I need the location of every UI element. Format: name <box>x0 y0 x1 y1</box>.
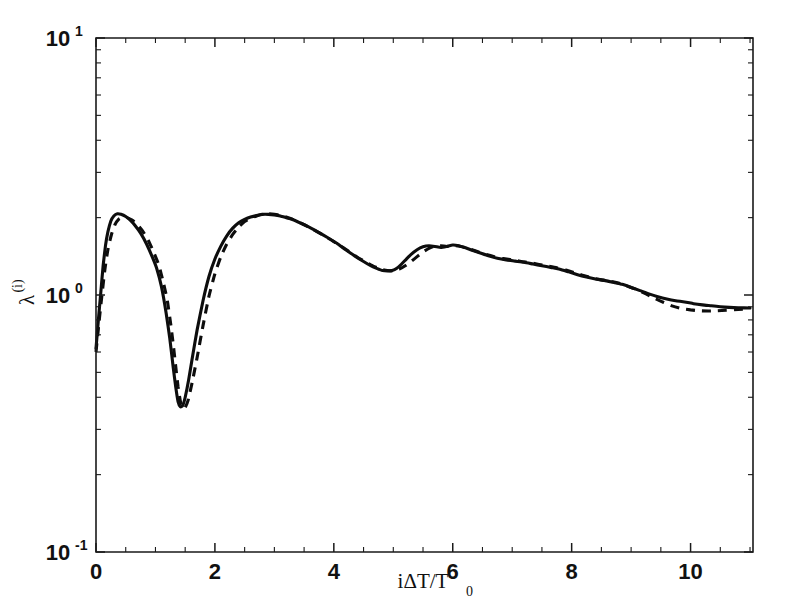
chart-background <box>0 0 786 614</box>
y-tick-label-exponent: 0 <box>75 280 83 296</box>
x-tick-label: 4 <box>328 559 341 584</box>
x-tick-label: 0 <box>90 559 102 584</box>
x-tick-label: 6 <box>447 559 459 584</box>
y-tick-label-mantissa: 10 <box>46 26 70 51</box>
x-axis-label-text: iΔT/T <box>398 569 449 593</box>
x-axis-label-subscript: 0 <box>466 584 473 599</box>
y-tick-label-mantissa: 10 <box>46 283 70 308</box>
line-chart: 0246810 10-1100101 iΔT/T 0 λ (i) <box>0 0 786 614</box>
y-tick-label-mantissa: 10 <box>46 540 70 565</box>
y-tick-label-exponent: 1 <box>75 23 83 39</box>
x-tick-label: 8 <box>566 559 578 584</box>
x-tick-label: 2 <box>209 559 221 584</box>
y-tick-label-exponent: -1 <box>75 537 88 553</box>
x-tick-label: 10 <box>678 559 702 584</box>
y-axis-label-text: λ <box>15 294 39 305</box>
figure-container: 0246810 10-1100101 iΔT/T 0 λ (i) <box>0 0 786 614</box>
y-axis-label-superscript: (i) <box>10 279 26 293</box>
